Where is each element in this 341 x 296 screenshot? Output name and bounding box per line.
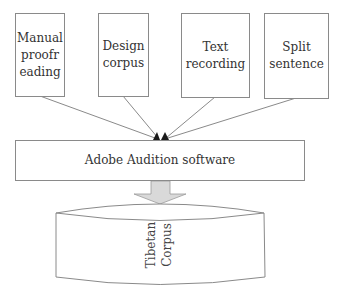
connector-split	[168, 98, 296, 138]
process-box-adobe-audition: Adobe Audition software	[15, 140, 305, 181]
input-label: Design corpus	[102, 38, 144, 72]
connector-manual	[40, 96, 155, 138]
connector-design	[123, 96, 158, 138]
corpus-label: Tibetan Corpus	[143, 210, 177, 280]
input-label: Split sentence	[269, 39, 323, 73]
block-arrow-down	[134, 181, 186, 204]
input-box-design-corpus: Design corpus	[98, 13, 149, 97]
process-label: Adobe Audition software	[85, 152, 235, 169]
input-box-manual-proofreading: Manual proofr eading	[15, 13, 65, 97]
input-box-split-sentence: Split sentence	[264, 13, 329, 99]
input-label: Text recording	[186, 39, 245, 73]
connector-text	[166, 97, 215, 138]
input-label: Manual proofr eading	[17, 30, 63, 81]
input-box-text-recording: Text recording	[181, 13, 250, 98]
